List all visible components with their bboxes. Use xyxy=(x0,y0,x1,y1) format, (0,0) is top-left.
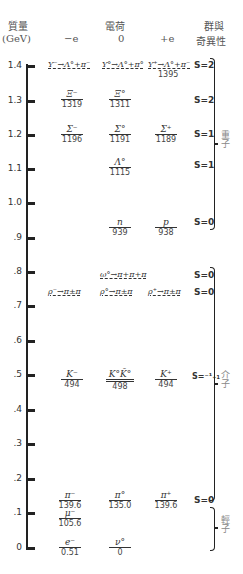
particle-electron: e⁻ 0.51 xyxy=(58,537,82,558)
particle-symbol: K⁻ xyxy=(60,369,84,379)
resonance-y-plus-mass: 1395 xyxy=(158,70,178,79)
tick-0-5 xyxy=(26,374,35,377)
tick-1-3 xyxy=(26,100,35,103)
tick-label: .8 xyxy=(0,266,22,276)
particle-mass: 498 xyxy=(105,382,135,392)
tick-1-0 xyxy=(26,202,35,205)
particle-mass: 939 xyxy=(108,228,132,238)
particle-mass: 0 xyxy=(108,548,132,558)
mass-header: 質量 xyxy=(8,18,28,33)
charge-header: 電荷 xyxy=(105,18,125,33)
particle-symbol: ν° xyxy=(108,537,132,547)
lepton-brace xyxy=(210,507,215,551)
resonance-rho-minus: ρ⁻→π±π xyxy=(48,287,81,296)
tick-label: 0 xyxy=(0,542,22,552)
particle-mass: 0.51 xyxy=(58,548,82,558)
tick-1-2 xyxy=(26,134,35,137)
resonance-y-zero: Y°→Λ°+π° xyxy=(102,60,144,69)
group-header: 群與 xyxy=(204,18,224,33)
tick-0-2 xyxy=(26,478,35,481)
charge-neg-header: −e xyxy=(64,33,78,44)
mass-unit: (GeV) xyxy=(2,33,31,44)
particle-symbol: K°K̄° xyxy=(105,369,135,379)
tick-label: .3 xyxy=(0,438,22,448)
group-label-baryon: 重子 xyxy=(220,130,230,148)
particle-symbol: Ξ⁻ xyxy=(60,89,84,99)
particle-mass: 1191 xyxy=(108,135,132,145)
particle-k-minus: K⁻ 494 xyxy=(60,369,84,390)
particle-mass: 938 xyxy=(154,228,178,238)
particle-mass: 1189 xyxy=(154,135,178,145)
particle-mass: 494 xyxy=(154,380,178,390)
tick-label: .6 xyxy=(0,335,22,345)
particle-symbol: p xyxy=(154,217,178,227)
particle-neutrino: ν° 0 xyxy=(108,537,132,558)
particle-mass: 494 xyxy=(60,380,84,390)
baryon-brace-tip xyxy=(214,143,218,145)
particle-neutron: n 939 xyxy=(108,217,132,238)
tick-label: 1.0 xyxy=(0,197,22,207)
particle-mass: 135.0 xyxy=(108,501,132,511)
particle-mass: 1319 xyxy=(60,100,84,110)
particle-mass: 1196 xyxy=(60,135,84,145)
group-label-meson: 介子 xyxy=(220,370,230,388)
tick-label: .2 xyxy=(0,473,22,483)
tick-label: .7 xyxy=(0,300,22,310)
tick-0-8 xyxy=(26,271,35,274)
particle-symbol: μ⁻ xyxy=(58,508,82,518)
meson-brace-tip xyxy=(214,383,218,385)
particle-lambda-zero: Λ° 1115 xyxy=(108,157,132,178)
charge-pos-header: +e xyxy=(160,33,174,44)
particle-symbol: π⁺ xyxy=(154,490,178,500)
particle-symbol: Λ° xyxy=(108,157,132,167)
particle-symbol: e⁻ xyxy=(58,537,82,547)
tick-0-9 xyxy=(26,237,35,240)
tick-label: 1.4 xyxy=(0,60,22,70)
particle-sigma-plus: Σ⁺ 1189 xyxy=(154,124,178,145)
particle-mass: 1311 xyxy=(108,100,132,110)
tick-0-3 xyxy=(26,443,35,446)
resonance-y-plus: Y⁺→Λ°+π⁻ xyxy=(148,60,190,69)
diagram-title xyxy=(60,0,190,6)
particle-symbol: K⁺ xyxy=(154,369,178,379)
particle-pi-plus: π⁺ 139.6 xyxy=(154,490,178,511)
tick-label: .1 xyxy=(0,507,22,517)
particle-symbol: π⁻ xyxy=(58,490,82,500)
group-label-lepton: 輕子 xyxy=(220,515,230,533)
strangeness-label: S=⁻¹₊₁ xyxy=(192,372,220,381)
particle-mass: 105.6 xyxy=(58,519,82,529)
particle-symbol: Σ⁺ xyxy=(154,124,178,134)
tick-0-6 xyxy=(26,340,35,343)
resonance-y-minus: Y⁻→Λ°+π⁻ xyxy=(48,60,90,69)
particle-xi-minus: Ξ⁻ 1319 xyxy=(60,89,84,110)
particle-symbol: π° xyxy=(108,490,132,500)
charge-zero-header: 0 xyxy=(118,33,124,44)
particle-pi-zero: π° 135.0 xyxy=(108,490,132,511)
tick-label: 1.1 xyxy=(0,163,22,173)
particle-k-plus: K⁺ 494 xyxy=(154,369,178,390)
tick-1-4 xyxy=(26,65,35,68)
particle-k-zero: K°K̄° 498 xyxy=(105,369,135,392)
tick-label: 1.3 xyxy=(0,95,22,105)
tick-label: .4 xyxy=(0,404,22,414)
tick-0-7 xyxy=(26,305,35,308)
particle-muon: μ⁻ 105.6 xyxy=(58,508,82,529)
tick-0 xyxy=(26,547,35,550)
resonance-rho-zero: ρ°→π±π xyxy=(100,287,133,296)
particle-proton: p 938 xyxy=(154,217,178,238)
particle-sigma-zero: Σ° 1191 xyxy=(108,124,132,145)
tick-1-1 xyxy=(26,168,35,171)
particle-symbol: n xyxy=(108,217,132,227)
tick-label: .9 xyxy=(0,232,22,242)
particle-symbol: Σ⁻ xyxy=(60,124,84,134)
tick-0-1 xyxy=(26,512,35,515)
particle-symbol: Ξ° xyxy=(108,89,132,99)
particle-mass: 1115 xyxy=(108,168,132,178)
strangeness-header: 奇異性 xyxy=(196,33,226,48)
tick-label: .5 xyxy=(0,369,22,379)
tick-0-4 xyxy=(26,409,35,412)
lepton-brace-tip xyxy=(214,527,218,529)
particle-xi-zero: Ξ° 1311 xyxy=(108,89,132,110)
particle-symbol: Σ° xyxy=(108,124,132,134)
tick-label: 1.2 xyxy=(0,129,22,139)
